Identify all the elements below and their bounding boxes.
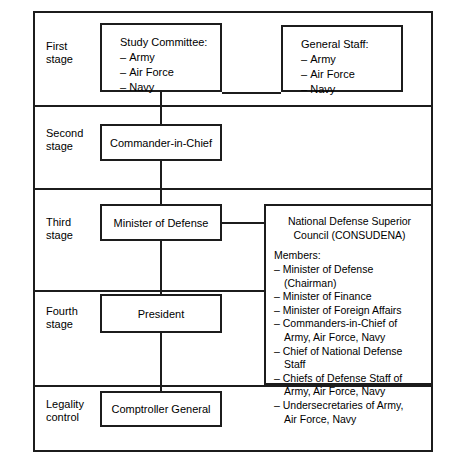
list-item: Army: [301, 52, 401, 67]
connector-president-to-comptroller: [160, 333, 162, 391]
node-study-committee[interactable]: Study Committee: Army Air Force Navy: [100, 23, 222, 92]
list-item: Army: [120, 50, 220, 65]
node-consudena[interactable]: National Defense Superior Council (CONSU…: [264, 204, 433, 385]
stage-label-first: First stage: [46, 40, 108, 66]
node-president-label: President: [138, 307, 184, 321]
node-consudena-title: National Defense Superior Council (CONSU…: [274, 214, 425, 242]
connector-minister-to-president: [160, 241, 162, 294]
node-minister-of-defense[interactable]: Minister of Defense: [100, 204, 222, 241]
connector-commander-to-minister: [160, 161, 162, 204]
stage-label-third: Third stage: [46, 216, 108, 242]
node-president[interactable]: President: [100, 294, 222, 333]
list-item: Navy: [120, 80, 220, 95]
node-consudena-members-heading: Members:: [274, 248, 425, 262]
node-commander-in-chief[interactable]: Commander-in-Chief: [100, 124, 222, 161]
list-item: Minister of Defense (Chairman): [274, 263, 425, 290]
org-chart-diagram: First stage Second stage Third stage Fou…: [0, 0, 462, 465]
stage-label-fourth: Fourth stage: [46, 305, 108, 331]
list-item: Navy: [301, 82, 401, 97]
list-item: Air Force: [301, 67, 401, 82]
node-commander-in-chief-label: Commander-in-Chief: [110, 136, 212, 150]
connector-study-committee-to-general-staff: [222, 92, 281, 94]
list-item: Minister of Finance: [274, 290, 425, 304]
list-item: Air Force: [120, 65, 220, 80]
node-comptroller-general-label: Comptroller General: [111, 402, 210, 416]
list-item: Undersecretaries of Army, Air Force, Nav…: [274, 399, 425, 426]
list-item: Minister of Foreign Affairs: [274, 304, 425, 318]
node-general-staff-title: General Staff:: [301, 37, 401, 52]
node-general-staff-list: Army Air Force Navy: [301, 52, 401, 97]
list-item: Commanders-in-Chief of Army, Air Force, …: [274, 317, 425, 344]
node-general-staff[interactable]: General Staff: Army Air Force Navy: [281, 25, 403, 92]
node-consudena-members-list: Minister of Defense (Chairman) Minister …: [274, 263, 425, 426]
node-comptroller-general[interactable]: Comptroller General: [100, 391, 222, 427]
list-item: Chief of National Defense Staff: [274, 345, 425, 372]
node-minister-of-defense-label: Minister of Defense: [114, 216, 209, 230]
list-item: Chiefs of Defense Staff of Army, Air For…: [274, 372, 425, 399]
connector-study-committee-to-commander: [160, 92, 162, 124]
node-study-committee-list: Army Air Force Navy: [120, 50, 220, 95]
stage-divider-second-third: [33, 188, 433, 190]
stage-divider-first-second: [33, 105, 433, 107]
stage-label-second: Second stage: [46, 127, 108, 153]
stage-label-legality: Legality control: [46, 398, 108, 424]
connector-minister-to-consudena: [222, 222, 264, 224]
node-study-committee-title: Study Committee:: [120, 35, 220, 50]
